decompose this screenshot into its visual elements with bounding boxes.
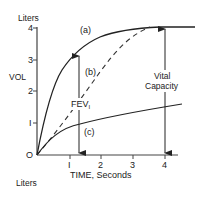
x-axis-label: TIME, Seconds [70, 170, 132, 180]
x-tick-4: 4 [162, 160, 167, 170]
x-tick-1: I [68, 160, 71, 170]
curve-c [37, 104, 182, 155]
y-tick-3: 3 [28, 55, 33, 65]
y-tick-1: I [29, 118, 32, 128]
x-tick-2: 2 [98, 160, 103, 170]
curve-a-label: (a) [80, 25, 91, 35]
y-unit-bottom: Liters [16, 178, 37, 188]
y-tick-0: O [26, 150, 33, 160]
x-tick-3: 3 [130, 160, 135, 170]
y-tick-4: 4 [28, 23, 33, 33]
curve-c-label: (c) [84, 127, 95, 137]
y-tick-2: 2 [28, 86, 33, 96]
fev1-label: FEVI [71, 99, 91, 110]
y-unit-top: Liters [18, 13, 39, 23]
curve-b-label: (b) [85, 67, 96, 77]
x-axis [37, 155, 178, 159]
capacity-label: Capacity [145, 81, 179, 91]
vital-label: Vital [154, 71, 170, 81]
spirometry-chart: 4 3 2 I O I 2 3 4 Liters VOL Liters TIME… [0, 0, 203, 197]
y-axis [33, 27, 37, 155]
y-axis-label: VOL [9, 72, 26, 82]
